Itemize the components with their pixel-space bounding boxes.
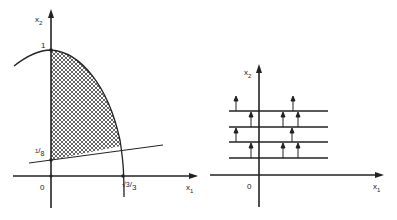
left-panel: x2 1 1/8 0 √3/3 x1 — [13, 9, 198, 208]
tick-label-1: 1 — [41, 41, 46, 50]
point-top — [49, 48, 53, 52]
left-y-label: x2 — [35, 15, 43, 26]
right-y-label: x2 — [244, 68, 252, 79]
left-x-arrow-icon — [189, 173, 198, 179]
right-origin-label: 0 — [247, 182, 252, 191]
horizontal-lines — [229, 111, 328, 158]
point-low — [49, 158, 53, 162]
point-x — [121, 174, 125, 178]
hatched-region — [51, 50, 121, 160]
left-y-arrow-icon — [48, 9, 54, 18]
tick-label-1-8: 1/8 — [35, 146, 45, 157]
right-panel: x2 0 x1 — [210, 64, 384, 207]
right-x-arrow-icon — [375, 172, 384, 178]
left-origin-label: 0 — [40, 183, 45, 192]
figure: x2 1 1/8 0 √3/3 x1 — [0, 0, 397, 220]
right-y-arrow-icon — [256, 64, 262, 73]
left-x-label: x1 — [186, 183, 194, 194]
right-x-label: x1 — [373, 182, 381, 193]
point-origin — [50, 175, 53, 178]
